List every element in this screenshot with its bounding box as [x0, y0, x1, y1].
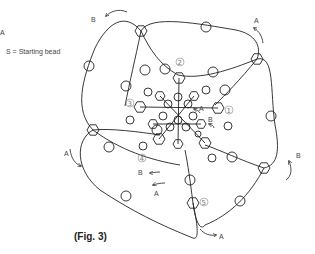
round-beads-outer — [84, 22, 276, 206]
label-a-left: A — [64, 150, 69, 157]
label-a-center: A — [199, 105, 204, 112]
label-a-lower-left: A — [154, 190, 159, 197]
label-b-right: B — [296, 152, 301, 159]
label-b-lower-left: B — [138, 169, 143, 176]
step-marker-4: 4 — [140, 155, 145, 163]
label-b-top: B — [91, 16, 96, 23]
central-bead-cluster — [126, 73, 232, 162]
beading-diagram: 1 2 3 4 5 B A B A A B A A B — [0, 0, 315, 254]
step-marker-5: 5 — [202, 199, 206, 207]
label-a-top-right: A — [254, 17, 259, 24]
outer-thread-loops — [80, 21, 277, 238]
label-b-center: B — [208, 116, 213, 123]
step-marker-3: 3 — [128, 100, 132, 108]
step-marker-1: 1 — [227, 107, 231, 115]
label-a-bottom: A — [219, 233, 224, 240]
step-marker-2: 2 — [178, 59, 182, 67]
